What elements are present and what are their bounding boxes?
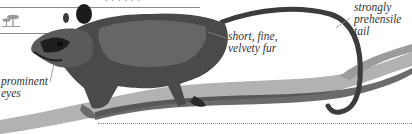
label-velvety-fur: short, fine, velvety fur <box>228 30 278 54</box>
label-line: eyes <box>1 87 48 99</box>
label-line: strongly <box>354 1 401 13</box>
label-prehensile-tail: strongly prehensile tail <box>354 1 401 37</box>
label-line: prominent <box>1 75 48 87</box>
eye <box>57 42 63 47</box>
label-line: short, fine, <box>228 30 278 42</box>
label-line: tail <box>354 25 401 37</box>
label-line: velvety fur <box>228 42 278 54</box>
ear <box>76 4 92 24</box>
leader-eyes <box>50 64 54 82</box>
label-line: prehensile <box>354 13 401 25</box>
illustration-panel: · · · · · · strongly <box>0 0 412 134</box>
dotted-baseline <box>98 123 412 124</box>
ear-small <box>63 13 69 23</box>
opossum-illustration <box>0 0 412 134</box>
label-prominent-eyes: prominent eyes <box>1 75 48 99</box>
